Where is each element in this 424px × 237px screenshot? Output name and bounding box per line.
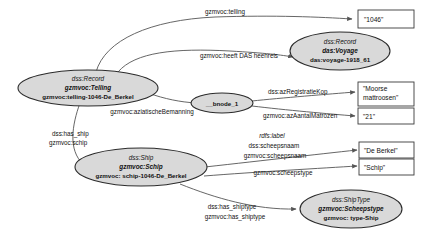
literal-21-text: "21" <box>363 113 376 120</box>
literal-de-berkel: "De Berkel" <box>359 142 414 158</box>
literal-schip: "Schip" <box>359 159 414 175</box>
node-record-voyage-line1: dss:Record <box>324 38 357 45</box>
literal-de-berkel-text: "De Berkel" <box>364 147 398 154</box>
edge-label-gzmvoc-scheepstype: gzmvoc:scheepstype <box>254 169 313 177</box>
node-record-telling-line2: gzmvoc:Telling <box>64 84 111 92</box>
literal-21: "21" <box>358 108 414 124</box>
node-record-telling: dss:Record gzmvoc:Telling gzmvoc:telling… <box>18 70 158 106</box>
node-record-voyage: dss:Record das:Voyage das:voyage-1918_61 <box>290 32 390 70</box>
node-record-voyage-line3: das:voyage-1918_61 <box>310 56 371 63</box>
node-ship-line3: gzmvoc: schip-1046-De_Berkel <box>95 172 186 179</box>
node-ship-line1: dss:Ship <box>129 154 154 162</box>
node-shiptype-line1: dss:ShipType <box>332 196 371 204</box>
node-record-voyage-line2: das:Voyage <box>322 47 358 55</box>
rdf-graph-diagram: "1046" "Moorse mattroosen" "21" "De Berk… <box>0 0 424 237</box>
edge-label-has-ship: dss:has_ship <box>52 130 89 138</box>
edge-label-dss-scheepsnaam: dss:scheepsnaam <box>249 142 300 150</box>
node-ship: dss:Ship gzmvoc:Schip gzmvoc: schip-1046… <box>75 148 207 186</box>
literal-moorse-mattroosen: "Moorse mattroosen" <box>358 82 414 106</box>
node-bnode: __bnode_1 <box>191 93 253 113</box>
literal-moorse-line2: mattroosen" <box>363 94 399 101</box>
literal-1046: "1046" <box>358 10 414 28</box>
node-shiptype-line2: gzmvoc:Scheepstype <box>317 205 384 213</box>
edge-label-rdfs-label: rdfs:label <box>259 132 285 139</box>
literal-schip-text: "Schip" <box>364 164 386 172</box>
node-record-telling-line3: gzmvoc:telling-1046-De_Berkel <box>42 93 134 100</box>
edge-aziatische-bemanning <box>148 93 196 103</box>
node-ship-line2: gzmvoc:Schip <box>118 163 162 171</box>
edge-label-heeft-das-heenreis: gzmvoc:heeft DAS heenreis <box>200 52 278 60</box>
edge-label-az-aantal-matrozen: gzmvoc:azAantalMatrozen <box>263 112 338 120</box>
graph-canvas: "1046" "Moorse mattroosen" "21" "De Berk… <box>0 0 424 237</box>
edge-label-telling: gzmvoc:telling <box>205 8 245 16</box>
edge-label-gzmvoc-scheepsnaam: gzmvoc:scheepsnaam <box>244 152 307 160</box>
edge-label-az-registratie-kop: dss:azRegistratieKop <box>268 88 328 96</box>
literal-moorse-line1: "Moorse <box>363 85 388 92</box>
node-shiptype: dss:ShipType gzmvoc:Scheepstype gzmvoc: … <box>300 190 402 228</box>
node-record-telling-line1: dss:Record <box>72 75 105 82</box>
edge-label-dss-has-shiptype: dss:has_shiptype <box>208 203 257 211</box>
edge-label-schip: gzmvoc:schip <box>49 139 88 147</box>
edge-label-gzmvoc-has-shiptype: gzmvoc:has_shiptype <box>205 213 266 221</box>
node-shiptype-line3: gzmvoc: type-Ship <box>323 214 378 221</box>
literal-1046-text: "1046" <box>364 16 384 23</box>
node-bnode-label: __bnode_1 <box>205 100 239 107</box>
edge-label-aziatische-bemanning: gzmvoc:aziatischeBemanning <box>110 108 194 116</box>
